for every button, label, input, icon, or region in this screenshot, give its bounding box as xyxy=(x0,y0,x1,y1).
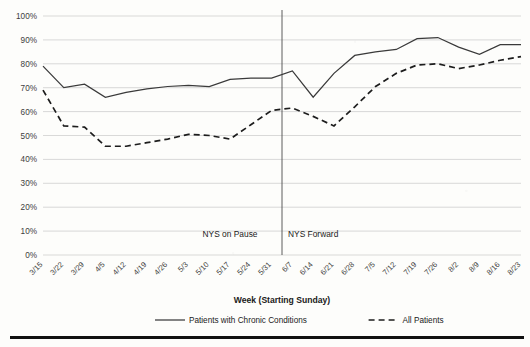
x-axis-tick-label: 5/24 xyxy=(235,260,252,277)
y-axis-tick-label: 60% xyxy=(21,108,37,117)
y-axis-tick-label: 30% xyxy=(21,179,37,188)
y-axis-tick-label: 50% xyxy=(21,132,37,141)
phase-annotation-label: NYS on Pause xyxy=(203,229,258,239)
x-axis-tick-label: 7/12 xyxy=(381,260,398,277)
chart-container: 0%10%20%30%40%50%60%70%80%90%100%3/153/2… xyxy=(0,0,530,347)
x-axis-tick-label: 8/16 xyxy=(485,260,502,277)
y-axis-tick-label: 10% xyxy=(21,227,37,236)
x-axis-tick-label: 6/14 xyxy=(298,260,315,277)
x-axis-tick-label: 4/19 xyxy=(132,260,149,277)
y-axis-tick-label: 20% xyxy=(21,203,37,212)
x-axis-tick-label: 5/17 xyxy=(215,260,232,277)
y-axis-tick-label: 70% xyxy=(21,84,37,93)
y-axis-tick-label: 80% xyxy=(21,60,37,69)
x-axis-tick-label: 5/31 xyxy=(256,260,273,277)
x-axis-tick-label: 7/26 xyxy=(422,260,439,277)
x-axis-tick-label: 8/2 xyxy=(446,260,460,274)
y-axis-tick-label: 0% xyxy=(25,251,37,260)
legend-label-2: All Patients xyxy=(403,316,444,325)
x-axis-tick-label: 8/23 xyxy=(506,260,523,277)
x-axis-title: Week (Starting Sunday) xyxy=(234,295,330,305)
x-axis-tick-label: 8/9 xyxy=(467,260,481,274)
x-axis-tick-label: 6/7 xyxy=(280,260,294,274)
legend-label-1: Patients with Chronic Conditions xyxy=(189,316,307,325)
x-axis-tick-label: 7/5 xyxy=(363,260,377,274)
x-axis-tick-label: 3/29 xyxy=(69,260,86,277)
x-axis-tick-label: 5/10 xyxy=(194,260,211,277)
x-axis-tick-label: 4/12 xyxy=(111,260,128,277)
x-axis-tick-label: 3/22 xyxy=(48,260,65,277)
x-axis-tick-label: 5/3 xyxy=(176,260,190,274)
x-axis-tick-label: 7/19 xyxy=(402,260,419,277)
x-axis-tick-label: 6/28 xyxy=(339,260,356,277)
x-axis-tick-label: 4/5 xyxy=(93,260,107,274)
y-axis-tick-label: 100% xyxy=(16,12,37,21)
x-axis-tick-label: 3/15 xyxy=(28,260,45,277)
y-axis-tick-label: 40% xyxy=(21,155,37,164)
x-axis-tick-label: 4/26 xyxy=(152,260,169,277)
y-axis-tick-label: 90% xyxy=(21,36,37,45)
line-chart: 0%10%20%30%40%50%60%70%80%90%100%3/153/2… xyxy=(0,0,530,330)
scan-artifact-bar xyxy=(10,336,524,339)
phase-annotation-label: NYS Forward xyxy=(288,229,339,239)
x-axis-tick-label: 6/21 xyxy=(319,260,336,277)
